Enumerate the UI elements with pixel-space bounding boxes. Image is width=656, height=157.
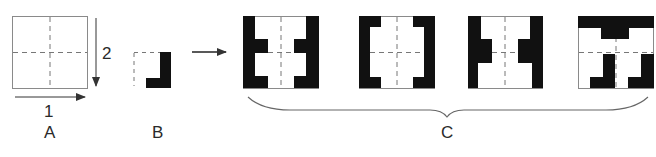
diagram-canvas: 2 1 A B xyxy=(0,0,656,157)
pattern-2 xyxy=(359,16,435,89)
panel-a-label: A xyxy=(44,123,56,142)
panel-a: 2 1 A xyxy=(13,17,112,143)
panel-c-label: C xyxy=(441,123,453,142)
l-shape-tile xyxy=(146,52,171,88)
pattern-4 xyxy=(578,16,654,89)
panel-b-label: B xyxy=(152,123,163,142)
panel-c: C xyxy=(243,16,654,142)
arrow-1-label: 1 xyxy=(44,102,53,121)
panel-b: B xyxy=(134,52,171,142)
pattern-1 xyxy=(243,16,319,89)
pattern-3 xyxy=(468,16,543,89)
arrow-2-label: 2 xyxy=(102,44,111,63)
curly-brace xyxy=(248,97,648,117)
